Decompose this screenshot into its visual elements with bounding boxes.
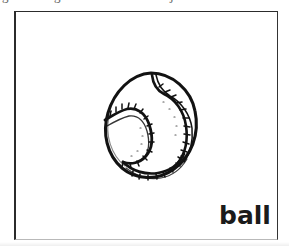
scan-bottom-edge <box>0 242 289 246</box>
ball-icon <box>96 64 204 184</box>
clipped-text-fragment-4: c <box>196 0 202 2</box>
flashcard-page: g g j c <box>0 0 289 246</box>
clipped-header-strip: g g j c <box>0 0 289 9</box>
word-label-ball: ball <box>219 203 271 228</box>
clipped-text-fragment-1: g <box>2 0 9 2</box>
ball-illustration <box>96 64 204 184</box>
card-frame: ball <box>14 11 278 240</box>
clipped-text-fragment-2: g <box>54 0 61 2</box>
clipped-text-fragment-3: j <box>170 0 174 2</box>
